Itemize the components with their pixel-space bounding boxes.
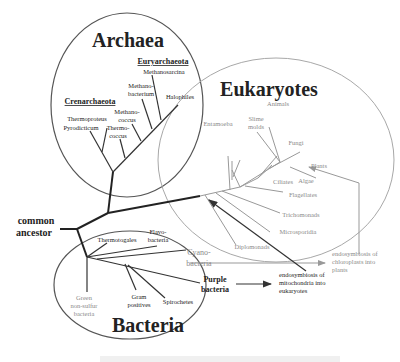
- mitochondria-annotation-1: endosymbiosis of: [279, 271, 326, 278]
- archaea-title: Archaea: [92, 29, 164, 51]
- methanococcus-label-1: Methano-: [114, 108, 139, 115]
- bacteria-title: Bacteria: [112, 314, 184, 336]
- euryarchaeota-label: Euryarchaeota: [138, 57, 189, 66]
- algae-label: Algae: [298, 177, 314, 184]
- methanobacterium-label-2: bacterium: [128, 90, 154, 97]
- microsporidia-label: Microsporidia: [280, 228, 317, 235]
- chloroplast-annotation-1: endosymbiosis of: [332, 250, 379, 257]
- thermoproteus-label: Thermoproteus: [67, 115, 107, 122]
- bacteria-branches: [87, 243, 200, 298]
- caption-remnant: [100, 356, 340, 362]
- crenarchaeota-label: Crenarchaeota: [65, 97, 116, 106]
- thermotogales-label: Thermotogales: [98, 236, 137, 243]
- green-nonsulfur-label-3: bacteria: [74, 310, 95, 317]
- mitochondria-annotation-3: eukaryotes: [279, 287, 308, 294]
- chloroplast-annotation-3: plants: [332, 266, 348, 273]
- pyrodicticum-label: Pyrodicticum: [63, 124, 98, 131]
- spirochetes-label: Spirochetes: [163, 298, 194, 305]
- ciliates-label: Ciliates: [273, 178, 293, 185]
- flavobacteria-label-2: bacteria: [148, 236, 169, 243]
- thermococcus-label-2: coccus: [109, 132, 127, 139]
- halophiles-label: Halophiles: [166, 93, 195, 100]
- eukaryotes-title: Eukaryotes: [220, 78, 318, 101]
- diplomonads-label: Diplomonads: [234, 243, 269, 250]
- common-ancestor-label-2: ancestor: [16, 227, 53, 238]
- flagellates-label: Flagellates: [289, 191, 318, 198]
- purple-bacteria-label-2: bacteria: [201, 285, 229, 294]
- entamoeba-label: Entamoeba: [203, 120, 232, 127]
- cyanobacteria-label-2: bacteria: [186, 259, 212, 268]
- slime-molds-label-2: molds: [248, 123, 264, 130]
- mitochondria-annotation-2: mitochondria into: [279, 279, 325, 286]
- methanosarcina-label: Methanosarcina: [143, 68, 185, 75]
- tree-of-life-diagram: Archaea Euryarchaeota Methanosarcina Met…: [0, 0, 400, 362]
- green-nonsulfur-label-2: non-sulfur: [70, 302, 98, 309]
- gram-positives-label-2: positives: [127, 301, 151, 308]
- flavobacteria-label-1: Flavo-: [150, 228, 167, 235]
- plants-label: Plants: [311, 162, 327, 169]
- slime-molds-label-1: Slime: [248, 115, 263, 122]
- thermococcus-label-1: Thermo-: [107, 124, 130, 131]
- fungi-label: Fungi: [288, 139, 303, 146]
- animals-label: Animals: [267, 100, 289, 107]
- gram-positives-label-1: Gram: [132, 293, 147, 300]
- methanobacterium-label-1: Methano-: [128, 82, 153, 89]
- common-ancestor-label-1: common: [18, 215, 55, 226]
- cyanobacteria-label-1: Cyano-: [187, 248, 211, 257]
- methanococcus-label-2: coccus: [118, 116, 136, 123]
- green-nonsulfur-label-1: Green: [76, 294, 93, 301]
- purple-bacteria-label-1: Purple: [203, 275, 227, 284]
- trichomonads-label: Trichomonads: [282, 211, 320, 218]
- chloroplast-annotation-2: chloroplasts into: [332, 258, 375, 265]
